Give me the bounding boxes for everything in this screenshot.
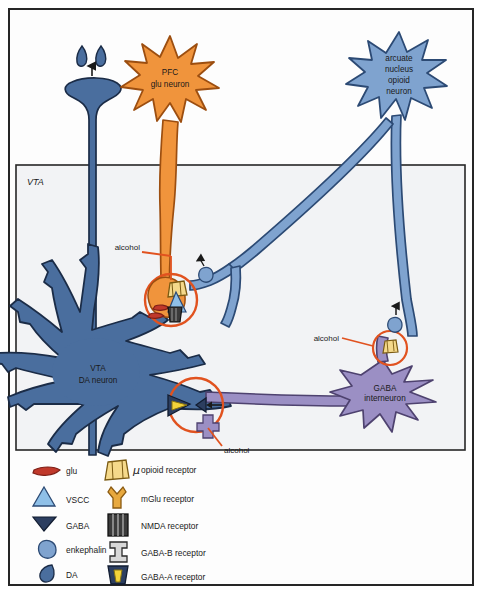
alcohol-label-gaba-synapse: alcohol — [224, 446, 250, 455]
legend-item-gabaa-receptor: GABA-A receptor — [108, 566, 205, 584]
legend-label-vscc: VSCC — [66, 495, 89, 505]
alcohol-label-interneuron: alcohol — [314, 334, 340, 343]
legend-item-glu: glu — [33, 466, 78, 476]
legend-item-mglu-receptor: mGlu receptor — [108, 487, 194, 508]
legend-label-gaba: GABA — [66, 521, 90, 531]
legend-item-gaba: GABA — [33, 517, 90, 531]
legend-item-da: DA — [40, 565, 78, 582]
legend-item-gabab-receptor: GABA-B receptor — [110, 542, 206, 562]
legend-label-da: DA — [66, 570, 78, 580]
neuron-label-arcuate-line4: neuron — [386, 87, 412, 96]
legend-label-enkephalin: enkephalin — [66, 545, 107, 555]
legend-item-vscc: VSCC — [33, 487, 89, 506]
legend-label-glu: glu — [66, 466, 78, 476]
legend-label-opioid-receptor: opioid receptor — [141, 465, 197, 475]
legend-label-gabaa-receptor: GABA-A receptor — [141, 572, 205, 582]
da-release-symbols — [77, 46, 106, 76]
neuron-label-arcuate-line1: arcuate — [385, 54, 413, 63]
legend-item-nmda-receptor: NMDA receptor — [108, 514, 198, 536]
figure-canvas: VTA PFC glu neuron arcuate nucleus opioi… — [0, 0, 482, 594]
diagram-svg: VTA PFC glu neuron arcuate nucleus opioi… — [0, 0, 482, 594]
legend-label-nmda-receptor: NMDA receptor — [141, 521, 198, 531]
neuron-label-gaba-line2: interneuron — [364, 394, 406, 403]
neuron-label-arcuate-line3: opioid — [388, 76, 410, 85]
neuron-label-vta-line1: VTA — [90, 364, 106, 373]
alcohol-label-pfc-synapse: alcohol — [115, 243, 141, 252]
neuron-label-pfc-line2: glu neuron — [151, 80, 190, 89]
neuron-label-vta-line2: DA neuron — [79, 376, 118, 385]
legend-item-enkephalin: enkephalin — [39, 540, 107, 558]
legend-label-gabab-receptor: GABA-B receptor — [141, 548, 206, 558]
legend: glu VSCC GABA enkephalin DA — [33, 460, 206, 584]
legend-item-opioid-receptor: μ opioid receptor — [105, 460, 197, 480]
vta-region-label: VTA — [27, 177, 44, 187]
legend-prefix-opioid: μ — [132, 464, 140, 477]
neuron-label-gaba-line1: GABA — [374, 384, 397, 393]
neuron-label-arcuate-line2: nucleus — [385, 65, 413, 74]
neuron-label-pfc-line1: PFC — [162, 68, 178, 77]
legend-label-mglu-receptor: mGlu receptor — [141, 494, 194, 504]
